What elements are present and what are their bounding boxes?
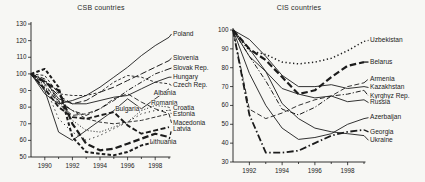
cis-x-tick-label: 1992	[242, 167, 257, 174]
series-leader-russia	[364, 100, 369, 103]
csb-x-tick-label: 1990	[38, 162, 53, 169]
csb-y-tick-label: 120	[16, 37, 27, 44]
series-label-albania: Albania	[154, 89, 176, 96]
csb-x-tick-label: 1994	[93, 162, 108, 169]
csb-y-tick-label: 80	[19, 103, 27, 110]
series-leader-georgia	[364, 130, 369, 132]
cis-x-tick-label: 1994	[275, 167, 290, 174]
series-leader-poland	[169, 34, 172, 37]
series-label-czech-rep: Czech Rep.	[173, 81, 208, 89]
cis-axes	[233, 28, 366, 162]
csb-x-tick-label: 1998	[148, 162, 163, 169]
csb-y-tick-label: 100	[16, 70, 27, 77]
series-label-russia: Russia	[370, 98, 390, 105]
series-label-lithuania: Lithuania	[150, 138, 177, 145]
cis-y-tick-label: 90	[221, 45, 229, 52]
series-leader-slovak-rep	[169, 68, 172, 69]
csb-x-tick-label: 1996	[121, 162, 136, 169]
cis-y-tick-label: 100	[218, 26, 229, 33]
series-line-russia	[233, 30, 364, 102]
cis-y-tick-label: 30	[221, 158, 229, 165]
series-label-hungary: Hungary	[173, 73, 199, 81]
cis-chart-title: CIS countries	[231, 4, 367, 11]
csb-y-tick-label: 130	[16, 20, 27, 27]
series-label-poland: Poland	[173, 30, 194, 37]
series-leader-macedonia	[169, 114, 172, 123]
series-leader-czech-rep	[169, 84, 172, 86]
series-leader-uzbekistan	[364, 40, 369, 41]
series-line-belarus	[233, 30, 364, 94]
csb-y-tick-label: 60	[19, 136, 27, 143]
cis-x-tick-label: 1998	[341, 167, 356, 174]
gdp-index-figure: 5060708090100110120130199019921994199619…	[0, 0, 425, 182]
cis-y-tick-label: 40	[221, 139, 229, 146]
series-line-georgia	[233, 30, 364, 153]
cis-x-tick-label: 1996	[308, 167, 323, 174]
series-line-estonia	[31, 74, 169, 132]
series-leader-armenia	[364, 79, 369, 83]
series-label-slovenia: Slovenia	[173, 54, 199, 61]
series-leader-azerbaijan	[364, 118, 369, 119]
series-leader-ukraine	[364, 136, 369, 141]
series-label-belarus: Belarus	[370, 58, 393, 65]
cis-y-tick-label: 70	[221, 83, 229, 90]
csb-chart-title: CSB countries	[31, 4, 171, 11]
csb-y-tick-label: 110	[16, 53, 27, 60]
series-leader-estonia	[169, 107, 172, 114]
csb-y-tick-label: 70	[19, 120, 27, 127]
series-line-poland	[31, 37, 169, 104]
series-label-estonia: Estonia	[173, 110, 195, 117]
series-label-uzbekistan: Uzbekistan	[370, 36, 403, 43]
series-label-slovak-rep: Slovak Rep.	[173, 64, 209, 72]
series-label-ukraine: Ukraine	[370, 136, 393, 143]
series-label-kazakhstan: Kazakhstan	[370, 83, 405, 90]
series-line-croatia	[31, 74, 169, 140]
series-leader-slovenia	[169, 58, 172, 60]
series-line-romania	[31, 74, 169, 116]
figure-svg: 5060708090100110120130199019921994199619…	[0, 0, 425, 182]
series-label-armenia: Armenia	[370, 75, 395, 82]
series-line-albania	[31, 74, 169, 140]
series-label-azerbaijan: Azerbaijan	[370, 113, 401, 121]
csb-x-tick-label: 1992	[65, 162, 80, 169]
series-label-georgia: Georgia	[370, 128, 394, 136]
csb-y-tick-label: 50	[19, 153, 27, 160]
cis-y-tick-label: 80	[221, 64, 229, 71]
cis-y-tick-label: 50	[221, 120, 229, 127]
series-line-ukraine	[233, 30, 364, 136]
series-label-latvia: Latvia	[173, 125, 191, 132]
csb-y-tick-label: 90	[19, 87, 27, 94]
series-label-bulgaria: Bulgaria	[115, 105, 140, 113]
cis-y-tick-label: 60	[221, 101, 229, 108]
series-leader-kyrghyz-rep	[364, 90, 369, 96]
series-leader-kazakhstan	[364, 87, 369, 88]
